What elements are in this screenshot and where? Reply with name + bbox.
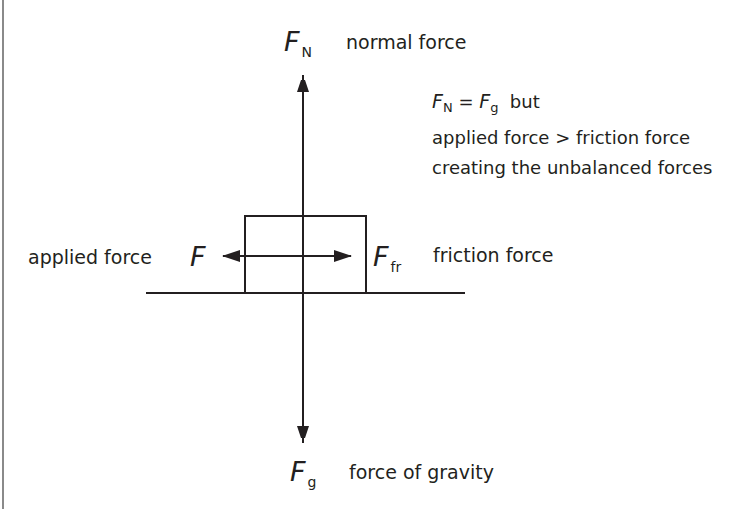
- applied-force-label: applied force: [28, 248, 152, 267]
- applied-force-symbol: F: [190, 243, 206, 270]
- gravity-label: force of gravity: [349, 463, 494, 482]
- explanation-note: FN = Fg but applied force > friction for…: [432, 86, 712, 183]
- note-equation: FN = Fg but: [432, 86, 712, 123]
- note-line-3: creating the unbalanced forces: [432, 153, 712, 183]
- normal-force-label: normal force: [346, 33, 466, 52]
- block: [245, 216, 366, 293]
- note-line-2: applied force > friction force: [432, 123, 712, 153]
- normal-force-symbol: FN: [284, 28, 312, 59]
- friction-force-label: friction force: [433, 246, 554, 265]
- friction-force-symbol: Ffr: [373, 243, 401, 274]
- gravity-symbol: Fg: [290, 458, 316, 489]
